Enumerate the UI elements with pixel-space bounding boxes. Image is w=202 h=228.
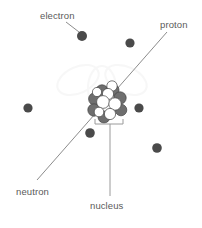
electron-particle — [134, 103, 143, 112]
electron-particle — [125, 38, 134, 47]
nucleus-cluster — [88, 81, 127, 123]
electron-label: electron — [40, 10, 75, 21]
electron-particle — [23, 103, 32, 112]
neutron-label: neutron — [16, 186, 49, 197]
proton-particle — [94, 107, 104, 117]
nucleus-label: nucleus — [90, 200, 123, 211]
electron-particle — [152, 143, 162, 153]
electron-leader-line — [66, 22, 79, 32]
atom-structure-diagram: electron proton neutron nucleus — [0, 0, 202, 228]
electron-particle — [77, 31, 87, 41]
proton-particle — [104, 108, 115, 119]
proton-particle — [92, 87, 101, 96]
proton-particle — [97, 96, 110, 109]
electron-particle — [85, 128, 95, 138]
proton-label: proton — [160, 19, 188, 30]
